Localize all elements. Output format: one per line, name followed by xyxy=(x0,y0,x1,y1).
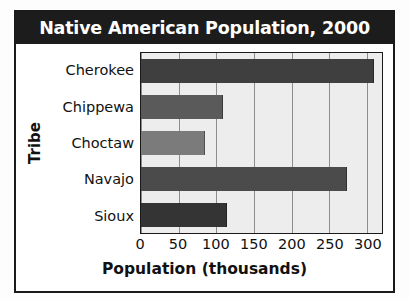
y-axis-tick-labels: CherokeeChippewaChoctawNavajoSioux xyxy=(46,52,138,234)
x-axis-tick-label: 50 xyxy=(169,236,187,252)
x-axis-tick-labels: 050100150200250300 xyxy=(140,236,383,258)
bar[interactable] xyxy=(141,59,374,82)
bar-slot xyxy=(141,197,382,233)
bar-slot xyxy=(141,125,382,161)
x-axis-tick-label: 150 xyxy=(240,236,268,252)
y-axis-tick-label: Sioux xyxy=(46,198,138,234)
chart-title-banner: Native American Population, 2000 xyxy=(16,12,393,44)
chart-title: Native American Population, 2000 xyxy=(39,18,370,38)
chart-figure: Native American Population, 2000 Tribe C… xyxy=(0,0,409,300)
y-axis-tick-label: Cherokee xyxy=(46,52,138,88)
x-axis-tick-label: 300 xyxy=(354,236,382,252)
x-axis-tick-label: 100 xyxy=(202,236,230,252)
chart-card: Native American Population, 2000 Tribe C… xyxy=(14,10,395,293)
bar[interactable] xyxy=(141,95,223,118)
x-axis-tick-label: 200 xyxy=(278,236,306,252)
bar-slot xyxy=(141,53,382,89)
bar-slot xyxy=(141,161,382,197)
bar-series xyxy=(141,53,382,233)
bar-slot xyxy=(141,89,382,125)
x-axis-tick-label: 0 xyxy=(135,236,144,252)
y-axis-title: Tribe xyxy=(26,108,44,178)
bar[interactable] xyxy=(141,167,347,190)
y-axis-tick-label: Chippewa xyxy=(46,88,138,124)
x-axis-tick-label: 250 xyxy=(316,236,344,252)
y-axis-tick-label: Choctaw xyxy=(46,125,138,161)
plot-area xyxy=(140,52,383,234)
bar[interactable] xyxy=(141,203,227,226)
x-axis-title: Population (thousands) xyxy=(16,260,393,278)
bar[interactable] xyxy=(141,131,205,154)
y-axis-tick-label: Navajo xyxy=(46,161,138,197)
